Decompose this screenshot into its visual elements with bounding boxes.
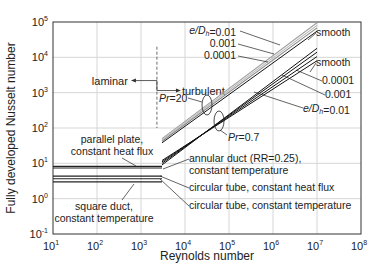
label-pr20: Pr=20 <box>159 92 187 104</box>
x-axis-label: Reynolds number <box>160 249 254 263</box>
y-tick-labels: 10-1100101102103104105 <box>30 15 49 240</box>
label-square-2: constant temperature <box>54 212 153 224</box>
y-tick-label: 104 <box>32 50 48 63</box>
nusselt-chart: 101102103104105106107108 10-110010110210… <box>0 0 381 280</box>
y-tick-label: 101 <box>32 156 48 169</box>
label-pr07: Pr=0.7 <box>228 131 259 143</box>
leader-line <box>122 184 134 200</box>
label-circular-flux: circular tube, constant heat flux <box>189 181 335 193</box>
leader-line <box>240 31 280 45</box>
laminar-label: laminar <box>92 75 128 87</box>
y-tick-label: 10-1 <box>30 227 49 240</box>
y-tick-label: 102 <box>32 121 48 134</box>
label-00001-right: 0.0001 <box>322 74 354 86</box>
label-circular-temp: circular tube, constant temperature <box>189 199 351 211</box>
label-parallel-plate: parallel plate, <box>81 133 143 145</box>
label-ed-001-right: e/Dh=0.01 <box>303 102 350 116</box>
x-tick-label: 107 <box>307 239 323 252</box>
leader-line <box>296 70 322 81</box>
label-annular: annular duct (RR=0.25), <box>189 152 301 164</box>
x-tick-label: 102 <box>87 239 103 252</box>
laminar-series <box>53 166 162 182</box>
label-0001-right: 0.001 <box>325 88 351 100</box>
label-smooth-pr20: smooth <box>316 26 351 38</box>
label-parallel-plate-2: constant heat flux <box>71 145 154 157</box>
leader-line <box>220 130 227 135</box>
label-annular-2: constant temperature <box>189 164 288 176</box>
y-tick-label: 105 <box>32 15 48 28</box>
turbulent-label: turbulent <box>182 85 225 97</box>
y-axis-label: Fully developed Nusselt number <box>4 42 18 213</box>
x-tick-label: 101 <box>43 239 59 252</box>
label-00001-top: 0.0001 <box>204 49 236 61</box>
leader-line <box>188 98 202 102</box>
x-tick-label: 103 <box>131 239 147 252</box>
y-tick-label: 100 <box>32 192 48 205</box>
y-tick-label: 103 <box>32 86 48 99</box>
label-ed-001-top: e/Dh=0.01 <box>189 24 236 38</box>
x-tick-label: 108 <box>351 239 367 252</box>
leader-line <box>282 75 325 95</box>
laminar-arrowhead <box>131 79 136 83</box>
leader-line <box>238 44 274 54</box>
x-tick-label: 106 <box>263 239 279 252</box>
label-smooth-pr07: smooth <box>316 56 351 68</box>
label-0001-top: 0.001 <box>210 37 236 49</box>
label-square: square duct, <box>75 200 133 212</box>
leader-line <box>122 158 136 166</box>
leader-line <box>254 92 303 108</box>
